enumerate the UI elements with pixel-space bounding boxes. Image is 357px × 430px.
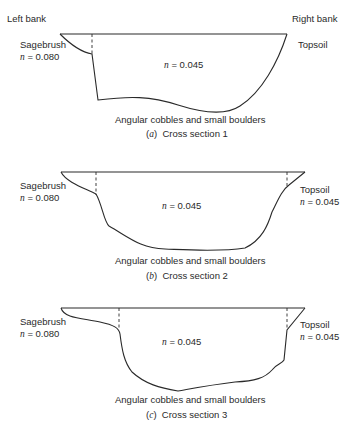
section2-right-n: n = 0.045 [300,196,339,208]
section2-center-n: n = 0.045 [162,200,201,212]
section3-right-material: Topsoil [300,319,330,331]
section3-left-material: Sagebrush [20,316,66,328]
section3-bed-material: Angular cobbles and small boulders [115,394,266,405]
section2-bed-material: Angular cobbles and small boulders [115,255,266,266]
section1-left-n: n = 0.080 [20,51,59,63]
cross-section-3-outline [61,308,305,391]
section1-bed-material: Angular cobbles and small boulders [115,114,266,125]
cross-section-1-outline [60,34,287,112]
section1-center-n: n = 0.045 [164,59,203,71]
section3-right-n: n = 0.045 [300,331,339,343]
right-bank-label: Right bank [292,13,337,25]
section2-right-material: Topsoil [300,184,330,196]
section1-right-material: Topsoil [298,39,328,51]
section3-center-n: n = 0.045 [162,336,201,348]
section2-caption: (b) Cross section 2 [146,270,228,281]
section2-left-n: n = 0.080 [20,192,59,204]
section3-left-n: n = 0.080 [20,328,59,340]
section1-caption: (a) Cross section 1 [146,128,228,139]
left-bank-label: Left bank [7,13,46,25]
section1-left-material: Sagebrush [20,39,66,51]
section2-left-material: Sagebrush [20,180,66,192]
section3-caption: (c) Cross section 3 [146,409,227,420]
